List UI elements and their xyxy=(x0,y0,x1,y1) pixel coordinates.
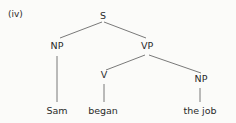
edge-s-np xyxy=(60,22,102,38)
edge-s-vp xyxy=(104,22,146,38)
edge-vp-np xyxy=(149,55,201,73)
node-np-subject: NP xyxy=(51,41,64,51)
edge-vp-v xyxy=(106,55,145,70)
node-v: V xyxy=(101,70,108,80)
leaf-sam: Sam xyxy=(46,106,67,116)
leaf-began: began xyxy=(88,106,118,116)
leaf-the-job: the job xyxy=(183,106,216,116)
node-np-object: NP xyxy=(195,74,208,84)
node-vp: VP xyxy=(141,41,153,51)
node-s: S xyxy=(100,11,106,21)
